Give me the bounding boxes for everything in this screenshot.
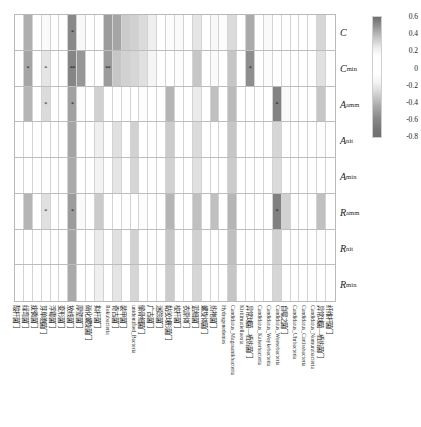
heatmap-cell[interactable] [113,15,122,50]
heatmap-cell[interactable] [255,51,264,86]
heatmap-cell[interactable] [131,194,140,229]
heatmap-cell[interactable] [148,230,157,265]
heatmap-cell[interactable] [282,122,291,157]
heatmap-cell[interactable] [122,265,131,301]
heatmap-cell[interactable] [131,265,140,301]
heatmap-cell[interactable] [33,265,42,301]
heatmap-cell[interactable] [139,122,148,157]
heatmap-cell[interactable] [139,194,148,229]
heatmap-cell[interactable] [219,230,228,265]
heatmap-cell[interactable] [77,15,86,50]
heatmap-cell[interactable] [175,158,184,193]
heatmap-cell[interactable] [131,230,140,265]
heatmap-cell[interactable] [33,15,42,50]
heatmap-cell[interactable] [59,122,68,157]
heatmap-cell[interactable] [51,265,60,301]
heatmap-cell[interactable] [237,87,246,122]
heatmap-cell[interactable] [42,230,51,265]
heatmap-cell[interactable] [51,15,60,50]
heatmap-cell[interactable] [273,265,282,301]
heatmap-cell[interactable] [68,230,77,265]
heatmap-cell[interactable] [15,87,24,122]
heatmap-cell[interactable] [264,230,273,265]
heatmap-cell[interactable] [24,265,33,301]
heatmap-cell[interactable] [264,122,273,157]
heatmap-cell[interactable] [308,122,317,157]
heatmap-cell[interactable] [282,194,291,229]
heatmap-cell[interactable] [86,15,95,50]
heatmap-cell[interactable] [299,51,308,86]
heatmap-cell[interactable] [33,194,42,229]
heatmap-cell[interactable] [326,265,335,301]
heatmap-cell[interactable] [202,15,211,50]
heatmap-cell[interactable] [68,158,77,193]
heatmap-cell[interactable] [51,194,60,229]
heatmap-cell[interactable] [184,158,193,193]
heatmap-cell[interactable] [317,194,326,229]
heatmap-cell[interactable] [264,51,273,86]
heatmap-cell[interactable] [308,15,317,50]
heatmap-cell[interactable] [166,122,175,157]
heatmap-cell[interactable] [148,51,157,86]
heatmap-cell[interactable] [246,122,255,157]
heatmap-cell[interactable] [122,87,131,122]
heatmap-cell[interactable] [42,122,51,157]
heatmap-cell[interactable] [273,122,282,157]
heatmap-cell[interactable] [77,87,86,122]
heatmap-cell[interactable] [291,230,300,265]
heatmap-cell[interactable] [157,122,166,157]
heatmap-cell[interactable] [308,87,317,122]
heatmap-cell[interactable] [308,230,317,265]
heatmap-cell[interactable] [77,158,86,193]
heatmap-cell[interactable] [86,194,95,229]
heatmap-cell[interactable] [193,87,202,122]
heatmap-cell[interactable] [33,230,42,265]
heatmap-cell[interactable] [148,87,157,122]
heatmap-cell[interactable] [317,265,326,301]
heatmap-cell[interactable] [184,122,193,157]
heatmap-cell[interactable] [148,15,157,50]
heatmap-cell[interactable] [59,87,68,122]
heatmap-cell[interactable] [291,265,300,301]
heatmap-cell[interactable] [299,230,308,265]
heatmap-cell[interactable] [211,51,220,86]
heatmap-cell[interactable] [33,51,42,86]
heatmap-cell[interactable] [264,87,273,122]
heatmap-cell[interactable] [228,122,237,157]
heatmap-cell[interactable] [317,122,326,157]
heatmap-cell[interactable] [219,122,228,157]
heatmap-cell[interactable] [166,15,175,50]
heatmap-cell[interactable] [264,15,273,50]
heatmap-cell[interactable] [131,51,140,86]
heatmap-cell[interactable] [237,194,246,229]
heatmap-cell[interactable] [139,87,148,122]
heatmap-cell[interactable] [104,158,113,193]
heatmap-cell[interactable]: * [68,15,77,50]
heatmap-cell[interactable] [95,230,104,265]
heatmap-cell[interactable] [291,158,300,193]
heatmap-cell[interactable] [157,87,166,122]
heatmap-cell[interactable] [291,194,300,229]
heatmap-cell[interactable] [113,51,122,86]
heatmap-cell[interactable] [299,265,308,301]
heatmap-cell[interactable] [175,122,184,157]
heatmap-cell[interactable] [95,51,104,86]
heatmap-cell[interactable] [166,158,175,193]
heatmap-cell[interactable] [59,194,68,229]
heatmap-cell[interactable] [202,122,211,157]
heatmap-cell[interactable] [166,230,175,265]
heatmap-cell[interactable] [246,230,255,265]
heatmap-cell[interactable] [326,51,335,86]
heatmap-cell[interactable] [219,194,228,229]
heatmap-cell[interactable] [193,51,202,86]
heatmap-cell[interactable] [113,158,122,193]
heatmap-cell[interactable] [282,51,291,86]
heatmap-cell[interactable] [15,122,24,157]
heatmap-cell[interactable] [24,87,33,122]
heatmap-cell[interactable] [184,194,193,229]
heatmap-cell[interactable] [219,158,228,193]
heatmap-cell[interactable] [113,265,122,301]
heatmap-cell[interactable] [113,122,122,157]
heatmap-cell[interactable] [237,51,246,86]
heatmap-cell[interactable] [228,265,237,301]
